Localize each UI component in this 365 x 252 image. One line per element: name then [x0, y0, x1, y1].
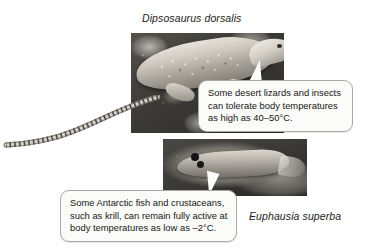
callout-line: can tolerate body temperatures: [208, 100, 344, 113]
callout-line: body temperatures as low as –2°C.: [70, 222, 228, 235]
callout-desert-iguana: Some desert lizards and insects can tole…: [198, 80, 353, 132]
species-caption-antarctic-krill: Euphausia superba: [249, 210, 341, 222]
callout-line: as high as 40–50°C.: [208, 112, 344, 125]
photo-antarctic-krill: [163, 139, 307, 196]
lizard-eye: [277, 44, 282, 48]
thermal-tolerance-figure: Dipsosaurus dorsalis Euphausia superba S…: [0, 0, 365, 252]
callout-antarctic-krill: Some Antarctic fish and crustaceans, suc…: [60, 190, 237, 242]
callout-line: such as krill, can remain fully active a…: [70, 210, 228, 223]
krill-eye-upper: [191, 153, 199, 161]
callout-line: Some desert lizards and insects: [208, 87, 344, 100]
krill-eye-lower: [197, 161, 204, 168]
callout-line: Some Antarctic fish and crustaceans,: [70, 197, 228, 210]
species-caption-desert-iguana: Dipsosaurus dorsalis: [142, 12, 241, 24]
